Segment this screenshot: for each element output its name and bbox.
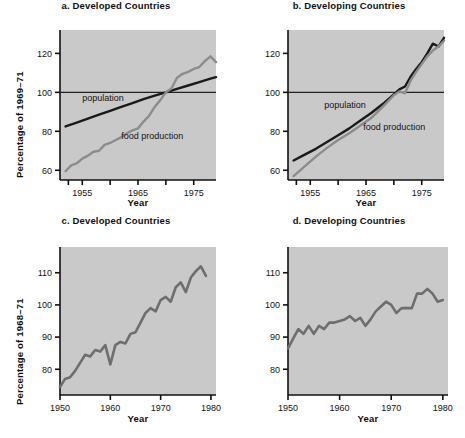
x-tick-label: 1970 — [151, 403, 171, 413]
y-tick-label: 100 — [265, 88, 280, 98]
panel-c-plot: 80901001101950196019701980 — [0, 215, 232, 438]
y-tick-label: 80 — [270, 127, 280, 137]
y-tick-label: 80 — [42, 127, 52, 137]
y-tick-label: 60 — [270, 166, 280, 176]
x-tick-label: 1965 — [128, 188, 148, 198]
x-tick-label: 1975 — [184, 188, 204, 198]
x-tick-label: 1950 — [278, 403, 298, 413]
x-tick-label: 1980 — [201, 403, 221, 413]
chart-panel-a: a. Developed Countries Percentage of 196… — [0, 0, 232, 215]
series-annotation: food production — [363, 122, 425, 132]
series-annotation: population — [324, 100, 366, 110]
y-tick-label: 120 — [265, 49, 280, 59]
y-tick-label: 100 — [37, 300, 52, 310]
panel-a-plot: 6080100120195519651975populationfood pro… — [0, 0, 232, 215]
x-tick-label: 1960 — [330, 403, 350, 413]
y-tick-label: 100 — [265, 300, 280, 310]
y-tick-label: 80 — [270, 365, 280, 375]
y-tick-label: 120 — [37, 49, 52, 59]
panel-b-plot: 6080100120195519651975populationfood pro… — [233, 0, 465, 215]
y-tick-label: 100 — [37, 88, 52, 98]
x-tick-label: 1955 — [72, 188, 92, 198]
chart-panel-c: c. Developed Countries Percentage of 196… — [0, 215, 232, 438]
y-tick-label: 60 — [42, 166, 52, 176]
series-annotation: food production — [121, 131, 183, 141]
x-tick-label: 1970 — [381, 403, 401, 413]
figure-root: a. Developed Countries Percentage of 196… — [0, 0, 465, 438]
x-tick-label: 1965 — [356, 188, 376, 198]
y-tick-label: 90 — [270, 332, 280, 342]
chart-panel-d: d. Developing Countries Year 80901001101… — [233, 215, 465, 438]
chart-panel-b: b. Developing Countries Year 60801001201… — [233, 0, 465, 215]
panel-d-plot: 80901001101950196019701980 — [233, 215, 465, 438]
y-tick-label: 110 — [266, 268, 280, 278]
x-tick-label: 1955 — [300, 188, 320, 198]
y-tick-label: 80 — [42, 365, 52, 375]
x-tick-label: 1975 — [412, 188, 432, 198]
series-annotation: population — [82, 93, 124, 103]
x-tick-label: 1950 — [50, 403, 70, 413]
x-tick-label: 1960 — [100, 403, 120, 413]
y-tick-label: 110 — [38, 268, 52, 278]
y-tick-label: 90 — [42, 332, 52, 342]
x-tick-label: 1980 — [433, 403, 453, 413]
